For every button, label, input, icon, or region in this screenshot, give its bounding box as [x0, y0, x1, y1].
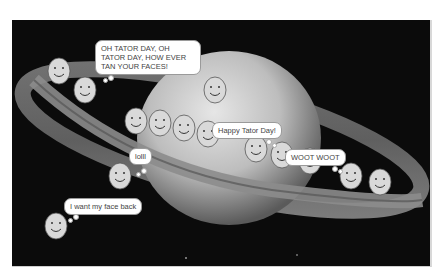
- thought-dot: [338, 169, 343, 174]
- smiley-face-icon: [148, 109, 172, 137]
- smiley-face-icon: [172, 114, 196, 142]
- smiley-face-icon: [203, 76, 227, 104]
- thought-dot: [108, 75, 114, 81]
- smiley-face-icon: [339, 162, 363, 190]
- thought-dot: [136, 172, 141, 177]
- thought-dot: [68, 218, 73, 223]
- smiley-face-icon: [47, 57, 71, 85]
- thought-bubble-lolll: lolll: [129, 148, 152, 165]
- smiley-face-icon: [73, 76, 97, 104]
- thought-bubble-woot: WOOT WOOT: [285, 149, 346, 166]
- smiley-face-icon: [368, 168, 392, 196]
- speech-bubble-happy: Happy Tator Day!: [212, 122, 282, 139]
- thought-bubble-face-back: I want my face back: [64, 198, 142, 215]
- smiley-face-icon: [108, 162, 132, 190]
- smiley-face-icon: [44, 212, 68, 240]
- smiley-face-icon: [244, 135, 268, 163]
- saturn-image: [12, 20, 430, 266]
- thought-dot: [73, 214, 79, 220]
- thought-dot: [141, 168, 147, 174]
- thought-dot: [272, 143, 277, 148]
- smiley-face-icon: [124, 107, 148, 135]
- speech-bubble-oh-tator: OH TATOR DAY, OH TATOR DAY, HOW EVER TAN…: [95, 40, 201, 75]
- animation-stage: OH TATOR DAY, OH TATOR DAY, HOW EVER TAN…: [12, 20, 432, 267]
